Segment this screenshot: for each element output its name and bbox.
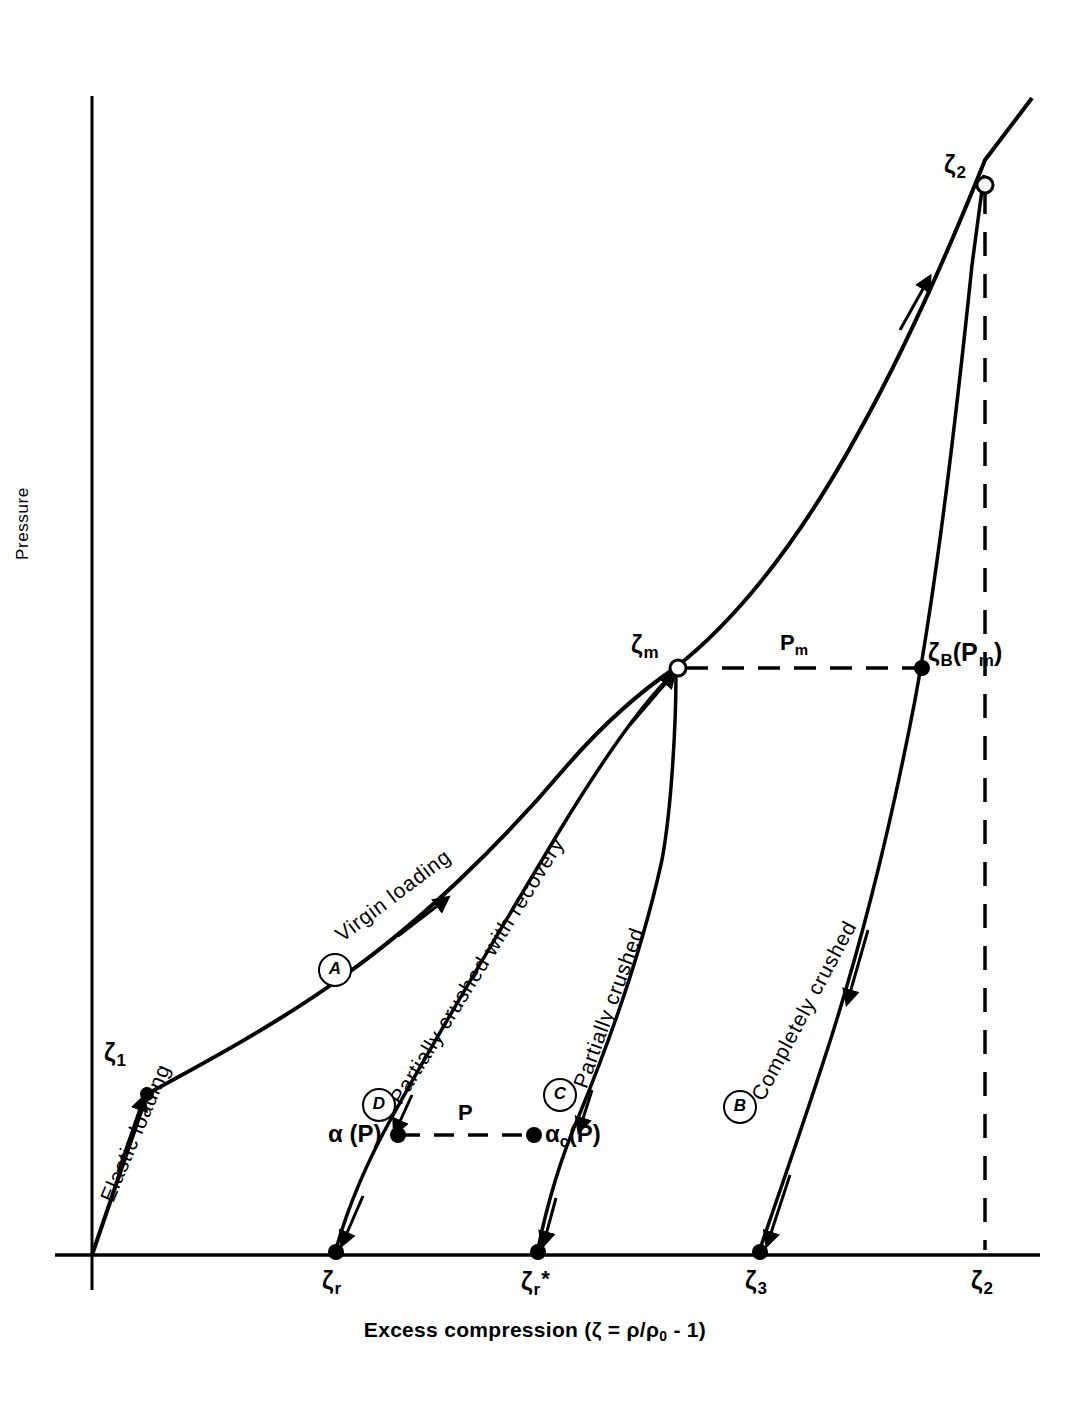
tick-zeta-r-base: ζ [322, 1266, 334, 1294]
x-axis-title-suffix: - 1) [667, 1318, 706, 1341]
point-zeta-2-sub: 2 [956, 163, 966, 182]
marker-zeta-r-star [530, 1244, 546, 1260]
alpha-c-p-label: αc(P) [545, 1120, 601, 1151]
zeta-b-tail-open: (P [953, 638, 978, 666]
marker-zeta-3 [752, 1244, 768, 1260]
zeta-b-tail-close: ) [994, 638, 1002, 666]
y-axis-title: Pressure [14, 360, 31, 560]
point-label-zeta-b-pm: ζB(Pm) [928, 640, 1002, 669]
marker-alpha-p [390, 1127, 406, 1143]
zeta-b-base: ζ [928, 638, 940, 666]
curve-b-badge: B [723, 1090, 757, 1124]
alpha-p-text: α (P) [328, 1120, 381, 1147]
alpha-c-base: α [545, 1120, 560, 1147]
pm-sub: m [795, 641, 808, 658]
curve-c-partially-crushed [538, 674, 676, 1249]
tick-zeta-r-star-sub: r [533, 1280, 541, 1299]
curve-b-completely-crushed [760, 175, 984, 1249]
x-axis-title-prefix: Excess compression ( [364, 1318, 592, 1341]
tick-zeta-r-star-asterisk: * [540, 1266, 550, 1291]
p-base: P [458, 1100, 473, 1125]
tick-label-zeta-r-star: ζr* [521, 1268, 550, 1298]
tick-label-zeta-2: ζ2 [971, 1268, 993, 1297]
marker-zeta-2 [977, 177, 993, 193]
marker-zeta-m [670, 660, 686, 676]
tick-zeta-3-base: ζ [745, 1266, 757, 1294]
x-axis-title: Excess compression (ζ = ρ/ρ0 - 1) [0, 1318, 1070, 1344]
tick-zeta-2-base: ζ [971, 1266, 983, 1294]
tick-zeta-3-sub: 3 [757, 1279, 767, 1298]
point-zeta-m-base: ζ [631, 630, 643, 658]
p-dashed-label: P [458, 1100, 473, 1126]
curve-a-badge: A [318, 953, 352, 987]
point-label-zeta-1: ζ1 [104, 1040, 126, 1069]
tick-label-zeta-r: ζr [322, 1268, 341, 1297]
point-zeta-1-sub: 1 [116, 1051, 126, 1070]
x-axis-title-eq: = [602, 1318, 627, 1341]
tick-label-zeta-3: ζ3 [745, 1268, 767, 1297]
plot-canvas [0, 0, 1070, 1412]
curve-a-virgin-loading [147, 98, 1032, 1094]
tick-zeta-r-sub: r [334, 1279, 342, 1298]
x-axis-title-zeta: ζ [592, 1318, 602, 1341]
point-label-zeta-m: ζm [631, 632, 659, 661]
curve-d-badge: D [362, 1088, 396, 1122]
pressure-compression-figure: Pressure Excess compression (ζ = ρ/ρ0 - … [0, 0, 1070, 1412]
point-label-zeta-2-top: ζ2 [944, 152, 966, 181]
marker-zeta-r [328, 1244, 344, 1260]
point-zeta-2-base: ζ [944, 150, 956, 178]
point-zeta-m-sub: m [643, 643, 659, 662]
alpha-c-tail: (P) [569, 1120, 601, 1147]
marker-alpha-c-p [526, 1127, 542, 1143]
x-axis-title-rho: ρ/ρ [626, 1318, 659, 1341]
alpha-c-sub: c [560, 1133, 569, 1150]
point-zeta-1-base: ζ [104, 1038, 116, 1066]
tick-zeta-2-sub: 2 [983, 1279, 993, 1298]
pm-dashed-label: Pm [780, 630, 808, 658]
zeta-b-sub: B [940, 651, 953, 670]
pm-base: P [780, 630, 795, 655]
curve-c-badge: C [543, 1078, 577, 1112]
tick-zeta-r-star-base: ζ [521, 1267, 533, 1295]
zeta-b-tail-sub: m [978, 651, 994, 670]
axis-lines [55, 96, 1040, 1290]
alpha-p-label: α (P) [328, 1120, 381, 1148]
